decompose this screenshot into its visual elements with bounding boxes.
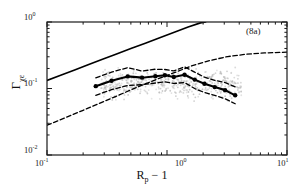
scatter-point [187,89,189,91]
scatter-point [145,86,147,88]
scatter-point [171,92,173,94]
scatter-point [130,90,132,92]
scatter-point [183,80,185,82]
scatter-point [178,80,180,82]
scatter-point [148,89,150,91]
scatter-point [120,73,122,75]
scatter-point [217,92,219,94]
scatter-point [215,90,217,92]
y-axis-title: Γχε [8,52,24,112]
scatter-point [133,70,135,72]
scatter-point [238,75,240,77]
data-point-marker [233,93,237,97]
scatter-point [180,84,182,86]
data-point-marker [213,85,217,89]
scatter-point [240,94,242,96]
data-point-marker [172,75,176,79]
scatter-point [104,93,106,95]
scatter-point [233,77,235,79]
scatter-point [148,78,150,80]
scatter-point [187,97,189,99]
scatter-point [237,82,239,84]
scatter-point [228,81,230,83]
scatter-point [232,80,234,82]
scatter-point [158,86,160,88]
scatter-point [240,85,242,87]
scatter-point [123,99,125,101]
scatter-point [172,80,174,82]
scatter-point [163,86,165,88]
scatter-point [109,75,111,77]
scatter-point [113,85,115,87]
scatter-point [192,83,194,85]
scatter-point [167,87,169,89]
scatter-point [137,88,139,90]
scatter-point [162,90,164,92]
series-upper-solid-theory [47,22,206,80]
scatter-point [183,90,185,92]
scatter-point [110,96,112,98]
scatter-point [151,98,153,100]
scatter-point [188,83,190,85]
scatter-point [117,67,119,69]
data-point-marker [109,79,113,83]
data-point-marker [202,82,206,86]
scatter-point [230,80,232,82]
scatter-point [224,80,226,82]
data-point-marker [163,73,167,77]
scatter-point [217,82,219,84]
scatter-point [182,92,184,94]
scatter-point [185,80,187,82]
scatter-point [106,72,108,74]
scatter-point [220,71,222,73]
panel-label: (8a) [246,26,261,36]
data-point-marker [94,84,98,88]
scatter-point [227,78,229,80]
scatter-point [215,72,217,74]
scatter-point [160,80,162,82]
scatter-point [217,85,219,87]
scatter-point [187,95,189,97]
scatter-point [181,80,183,82]
scatter-point [224,76,226,78]
scatter-point [177,84,179,86]
scatter-point [118,83,120,85]
scatter-point [104,78,106,80]
scatter-point [144,79,146,81]
scatter-point [116,83,118,85]
scatter-point [237,89,239,91]
data-point-marker [192,77,196,81]
scatter-point [197,96,199,98]
scatter-point [212,98,214,100]
scatter-point [122,79,124,81]
scatter-point [191,91,193,93]
scatter-point [165,78,167,80]
scatter-point [158,88,160,90]
scatter-point [224,95,226,97]
scatter-point [155,89,157,91]
scatter-point [210,80,212,82]
scatter-point [162,85,164,87]
scatter-point [206,89,208,91]
scatter-point [103,89,105,91]
scatter-point [116,89,118,91]
scatter-point [127,94,129,96]
scatter-point [151,85,153,87]
scatter-point [204,89,206,91]
scatter-point [175,95,177,97]
scatter-point [226,70,228,72]
scatter-point [205,87,207,89]
scatter-point [180,78,182,80]
scatter-point [224,86,226,88]
scatter-point [136,79,138,81]
scatter-point [193,93,195,95]
y-tick-label-1e-2: 10-2 [24,145,38,155]
x-tick-label-1e1: 101 [277,158,289,168]
scatter-point [130,81,132,83]
scatter-point [107,75,109,77]
scatter-point [182,88,184,90]
scatter-point [216,70,218,72]
scatter-point [165,88,167,90]
scatter-point [146,72,148,74]
scatter-point [230,72,232,74]
